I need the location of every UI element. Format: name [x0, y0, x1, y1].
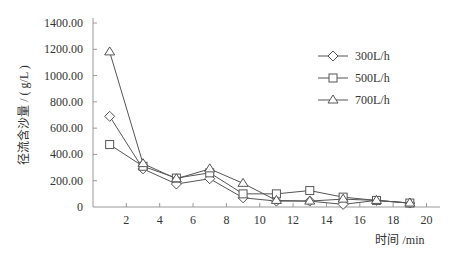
y-tick-label: 1200.00 — [44, 42, 83, 56]
x-tick-label: 20 — [421, 213, 433, 227]
y-tick-label: 800.00 — [50, 95, 83, 109]
legend-square-icon — [329, 74, 337, 82]
x-tick-label: 6 — [190, 213, 196, 227]
x-tick-label: 4 — [157, 213, 163, 227]
x-tick-label: 2 — [123, 213, 129, 227]
legend-label: 700L/h — [355, 93, 390, 107]
line-chart: 0200.00400.00600.00800.001000.001200.001… — [0, 0, 451, 259]
y-tick-label: 200.00 — [50, 174, 83, 188]
legend-label: 300L/h — [355, 49, 390, 63]
x-tick-label: 10 — [254, 213, 266, 227]
y-tick-label: 0 — [77, 200, 83, 214]
triangle-marker-icon — [105, 47, 115, 55]
y-axis-title: 径流含沙量 / ( g/L ) — [16, 65, 31, 165]
series-line — [110, 116, 410, 204]
x-tick-label: 16 — [354, 213, 366, 227]
y-tick-label: 1000.00 — [44, 69, 83, 83]
legend-triangle-icon — [328, 95, 338, 103]
square-marker-icon — [239, 190, 247, 198]
square-marker-icon — [306, 187, 314, 195]
legend-label: 500L/h — [355, 71, 390, 85]
series-300lh — [105, 111, 415, 209]
x-tick-label: 14 — [320, 213, 332, 227]
y-tick-label: 400.00 — [50, 147, 83, 161]
x-axis-title: 时间 /min — [375, 233, 424, 247]
x-tick-label: 12 — [287, 213, 299, 227]
diamond-marker-icon — [105, 111, 115, 121]
square-marker-icon — [106, 141, 114, 149]
y-tick-label: 1400.00 — [44, 16, 83, 30]
legend: 300L/h500L/h700L/h — [318, 49, 390, 107]
triangle-marker-icon — [205, 164, 215, 172]
series-500lh — [106, 141, 414, 207]
legend-diamond-icon — [328, 51, 338, 61]
x-tick-label: 18 — [387, 213, 399, 227]
x-tick-label: 8 — [223, 213, 229, 227]
y-tick-label: 600.00 — [50, 121, 83, 135]
